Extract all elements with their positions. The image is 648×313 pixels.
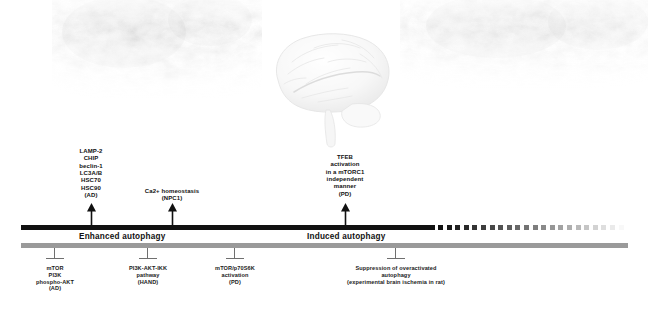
autophagy-bar-dash [455,225,460,230]
activator-label-tfeb-activation: TFEB activation in a mTORC1 independent … [300,154,390,198]
autophagy-bar-dash [481,225,486,230]
autophagy-bar-dash [524,225,529,230]
autophagy-bar-dash [515,225,520,230]
brain-illustration-icon [256,18,406,150]
up-arrow-icon [87,203,96,227]
autophagy-bar-dash [593,225,598,230]
induced-autophagy-label: Induced autophagy [307,232,385,241]
autophagy-bar-dash [584,225,589,230]
inhibition-marker-icon [226,248,244,261]
inhibition-marker-icon [46,248,64,261]
autophagy-timeline-figure: LAMP-2 CHIP beclin-1 LC3A/B HSC70 HSC90 … [0,0,648,313]
autophagy-bar-dash [619,225,624,230]
autophagy-bar-dash [576,225,581,230]
autophagy-bar-dash [601,225,606,230]
enhanced-autophagy-label: Enhanced autophagy [79,232,165,241]
autophagy-bar-fading-dashes [438,225,638,230]
activator-label-ca-homeostasis: Ca2+ homeostasis (NPC1) [122,188,222,203]
autophagy-bar-dash [498,225,503,230]
autophagy-bar-dash [464,225,469,230]
autophagy-bar-dash [550,225,555,230]
autophagy-bar-dash [567,225,572,230]
imagery-band [0,0,648,150]
autophagy-bar-dash [507,225,512,230]
autophagy-bar-dash [610,225,615,230]
brain-tissue-texture-left-icon [52,0,262,98]
autophagy-bar-dash [541,225,546,230]
inhibition-marker-icon [387,248,405,261]
autophagy-bar-dash [558,225,563,230]
autophagy-bar-dash [447,225,452,230]
brain-tissue-texture-right-icon [400,0,648,88]
autophagy-bar-dash [438,225,443,230]
up-arrow-icon [341,203,350,227]
inhibitor-label-mtor-pi3k-akt: mTOR PI3K phospho-AKT (AD) [10,265,100,292]
up-arrow-icon [168,203,177,227]
inhibition-marker-icon [139,248,157,261]
inhibitor-label-mtor-p70s6k: mTOR/p70S6K activation (PD) [190,265,280,285]
autophagy-bar-dash [490,225,495,230]
inhibitor-label-pi3k-akt-ikk: PI3K-AKT-IKK pathway (HAND) [103,265,193,285]
autophagy-bar-dash [472,225,477,230]
inhibitor-label-suppression-overactivated: Suppression of overactivated autophagy (… [311,265,481,285]
suppression-baseline-bar [21,243,628,248]
enhanced-induced-autophagy-bar [21,225,435,230]
autophagy-bar-dash [533,225,538,230]
